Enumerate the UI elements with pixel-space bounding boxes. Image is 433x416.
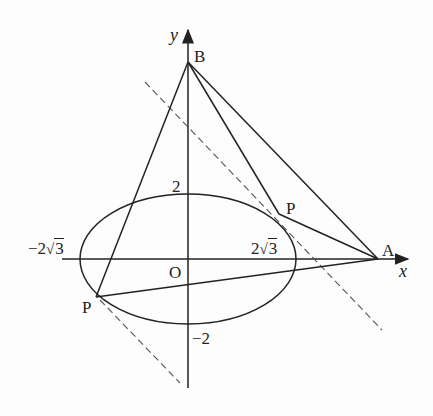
tick-radicand: 3	[268, 238, 278, 258]
diagram-svg	[0, 0, 433, 416]
segment-BA	[188, 62, 378, 259]
point-P-upper-label: P	[286, 200, 295, 217]
tick-y-neg2: −2	[192, 330, 210, 347]
origin-label: O	[169, 264, 181, 281]
tick-x-2sqrt3: 2√3	[251, 240, 277, 257]
tick-coefficient: −2	[28, 239, 46, 258]
y-axis-label: y	[170, 26, 178, 44]
point-B-label: B	[194, 48, 205, 65]
tick-x-neg-2sqrt3: −2√3	[28, 240, 64, 257]
tangent-line-upper	[145, 82, 382, 330]
segment-BP-upper	[188, 62, 279, 214]
segment-PA-lower	[96, 259, 378, 297]
tick-coefficient: 2	[251, 239, 260, 258]
point-A-label: A	[382, 242, 394, 259]
tangent-line-lower	[100, 300, 180, 383]
tick-y-2: 2	[172, 178, 181, 195]
segment-PA-upper	[279, 214, 378, 259]
point-P-lower-label: P	[82, 299, 91, 316]
ellipse-diagram: y x B A P P O 2 −2 −2√3 2√3	[0, 0, 433, 416]
tick-radicand: 3	[54, 238, 64, 258]
x-axis-label: x	[399, 262, 407, 280]
